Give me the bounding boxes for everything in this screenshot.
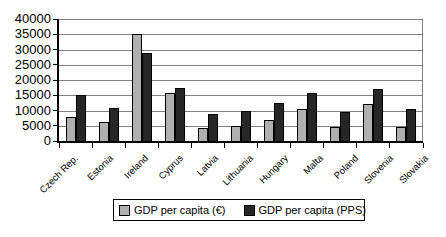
x-axis-tick [423, 143, 424, 148]
x-axis-tick [92, 143, 93, 148]
bar-gdp-pps [241, 111, 251, 142]
y-axis-label: 10000 [1, 104, 51, 118]
bar-gdp-pps [109, 108, 119, 141]
x-axis-tick [125, 143, 126, 148]
y-axis-label: 15000 [1, 88, 51, 102]
gridline [59, 19, 423, 20]
x-axis-tick [257, 143, 258, 148]
y-axis-tick [53, 141, 59, 142]
gdp-bar-chart: 0500010000150002000025000300003500040000… [0, 0, 446, 237]
bar-gdp-pps [340, 112, 350, 141]
bar-gdp-pps [406, 109, 416, 141]
legend-label-pps: GDP per capita (PPS) [259, 204, 366, 216]
chart-legend: GDP per capita (€) GDP per capita (PPS) [113, 199, 365, 221]
legend-item-pps: GDP per capita (PPS) [244, 204, 366, 216]
y-axis-label: 30000 [1, 43, 51, 57]
x-axis-label: Slovakia [360, 153, 431, 224]
bar-gdp-eur [396, 127, 406, 141]
y-axis-label: 25000 [1, 58, 51, 72]
bar-gdp-pps [76, 95, 86, 141]
gridline [59, 50, 423, 51]
x-axis-tick [290, 143, 291, 148]
bar-gdp-pps [142, 53, 152, 141]
y-axis-tick [53, 80, 59, 81]
bar-gdp-pps [208, 114, 218, 141]
x-axis-tick [59, 143, 60, 148]
bar-gdp-pps [373, 89, 383, 141]
bar-gdp-eur [198, 128, 208, 141]
y-axis-tick [53, 64, 59, 65]
x-axis-tick [323, 143, 324, 148]
x-axis-tick [389, 143, 390, 148]
bar-gdp-pps [307, 93, 317, 141]
y-axis-tick [53, 34, 59, 35]
legend-swatch-pps [244, 205, 255, 216]
legend-item-eur: GDP per capita (€) [119, 204, 226, 216]
x-axis-label: Estonia [44, 153, 115, 224]
y-axis-label: 20000 [1, 73, 51, 87]
y-axis-label: 35000 [1, 27, 51, 41]
plot-area: 0500010000150002000025000300003500040000… [57, 19, 423, 143]
x-axis-tick [356, 143, 357, 148]
y-axis-label: 0 [1, 134, 51, 148]
y-axis-tick [53, 95, 59, 96]
y-axis-label: 5000 [1, 119, 51, 133]
bar-gdp-eur [165, 93, 175, 141]
gridline [59, 34, 423, 35]
x-axis-tick [158, 143, 159, 148]
legend-label-eur: GDP per capita (€) [134, 204, 226, 216]
bar-gdp-eur [363, 104, 373, 141]
bar-gdp-eur [99, 122, 109, 141]
gridline [59, 95, 423, 96]
y-axis-label: 40000 [1, 12, 51, 26]
x-axis-tick [191, 143, 192, 148]
bar-gdp-eur [132, 34, 142, 141]
bar-gdp-eur [264, 120, 274, 141]
y-axis-tick [53, 110, 59, 111]
bar-gdp-eur [66, 117, 76, 141]
bar-gdp-eur [297, 109, 307, 141]
bar-gdp-eur [330, 127, 340, 141]
gridline [59, 80, 423, 81]
y-axis-tick [53, 49, 59, 50]
x-axis-label: Czech Rep. [9, 153, 80, 224]
y-axis-tick [53, 125, 59, 126]
bar-gdp-pps [175, 88, 185, 141]
x-axis-tick [224, 143, 225, 148]
bar-gdp-pps [274, 103, 284, 141]
y-axis-tick [53, 19, 59, 20]
legend-swatch-eur [119, 205, 130, 216]
bar-gdp-eur [231, 126, 241, 141]
gridline [59, 65, 423, 66]
